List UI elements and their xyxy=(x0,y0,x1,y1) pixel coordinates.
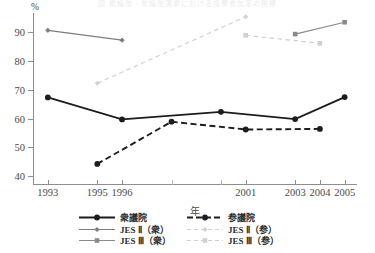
plot-area: 405060708090 199319951996200120032004200… xyxy=(33,13,357,185)
data-point xyxy=(95,81,100,86)
y-tick-label-40: 40 xyxy=(15,171,26,182)
legend-swatch-icon xyxy=(186,236,224,245)
y-tick-label-70: 70 xyxy=(15,84,26,95)
data-point xyxy=(45,28,50,33)
data-point xyxy=(169,119,175,125)
series-2 xyxy=(45,28,124,43)
x-tick-label-1995: 1995 xyxy=(87,187,108,198)
x-tick-label-1993: 1993 xyxy=(37,187,58,198)
data-point xyxy=(119,38,124,43)
legend-swatch-icon xyxy=(78,236,116,245)
data-point xyxy=(317,126,323,132)
series-0 xyxy=(45,94,348,122)
x-tick-label-2001: 2001 xyxy=(235,187,256,198)
chart-legend: 衆議院参議院JES Ⅱ（衆）JES Ⅱ（参）JES Ⅲ（衆）JES Ⅲ（参） xyxy=(78,212,328,247)
data-point xyxy=(342,20,347,25)
y-tick-label-60: 60 xyxy=(15,113,26,124)
legend-swatch-icon xyxy=(186,225,224,234)
x-tick-label-2003: 2003 xyxy=(285,187,306,198)
y-axis-unit-label: % xyxy=(31,2,39,12)
x-tick-label-2005: 2005 xyxy=(334,187,355,198)
data-point xyxy=(292,116,298,122)
data-point xyxy=(342,94,348,100)
y-tick-label-50: 50 xyxy=(15,142,26,153)
series-lines xyxy=(33,13,357,185)
data-point xyxy=(243,33,248,38)
data-point xyxy=(45,95,51,101)
series-1 xyxy=(94,119,322,167)
legend-swatch-icon xyxy=(186,213,224,222)
data-point xyxy=(293,32,298,37)
data-point xyxy=(119,116,125,122)
legend-label: JES Ⅲ（参） xyxy=(228,234,279,247)
data-point xyxy=(243,14,248,19)
legend-label: JES Ⅲ（衆） xyxy=(120,234,171,247)
y-tick-label-90: 90 xyxy=(15,26,26,37)
x-tick-label-2004: 2004 xyxy=(309,187,330,198)
legend-swatch-icon xyxy=(78,225,116,234)
x-tick-label-1996: 1996 xyxy=(112,187,133,198)
series-3 xyxy=(95,14,249,86)
series-5 xyxy=(243,33,322,46)
series-4 xyxy=(293,20,347,36)
chart-container: 図 衆議院・参議院選挙における投票参加率の推移 % 405060708090 1… xyxy=(0,0,375,253)
legend-swatch-icon xyxy=(78,213,116,222)
legend-item-5: JES Ⅲ（参） xyxy=(186,234,328,247)
clipped-figure-caption: 図 衆議院・参議院選挙における投票参加率の推移 xyxy=(0,0,375,9)
data-point xyxy=(243,127,249,133)
data-point xyxy=(318,41,323,46)
y-tick-label-80: 80 xyxy=(15,55,26,66)
data-point xyxy=(94,161,100,167)
legend-item-4: JES Ⅲ（衆） xyxy=(78,234,186,247)
data-point xyxy=(218,109,224,115)
